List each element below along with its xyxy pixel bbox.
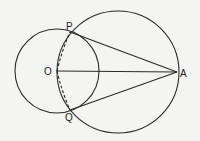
- segment-QA: [70, 72, 177, 110]
- segment-PA: [70, 32, 177, 72]
- label-O: O: [44, 66, 52, 77]
- label-P: P: [66, 21, 73, 32]
- segment-OQ: [57, 71, 70, 110]
- label-A: A: [180, 68, 187, 79]
- segment-OA: [57, 71, 177, 72]
- geometry-diagram: P O Q A: [0, 0, 200, 141]
- label-Q: Q: [65, 112, 73, 123]
